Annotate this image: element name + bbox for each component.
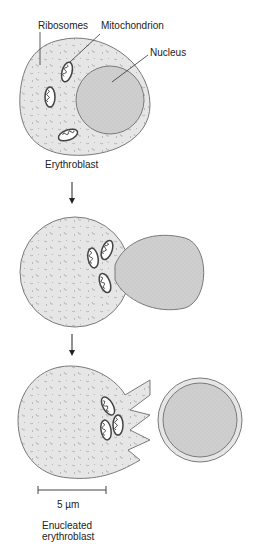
erythroblast-cell (20, 32, 150, 155)
scale-bar (38, 486, 106, 494)
label-ribosomes: Ribosomes (38, 20, 88, 31)
extruding-cell (20, 217, 204, 327)
enucleated-cell (18, 366, 242, 478)
diagram-canvas (0, 0, 255, 548)
label-enucleated-1: Enucleated (42, 520, 92, 531)
label-mitochondrion: Mitochondrion (101, 20, 164, 31)
label-scale: 5 µm (57, 499, 79, 510)
nucleus (76, 66, 144, 134)
label-enucleated-2: erythroblast (42, 531, 94, 542)
label-erythroblast: Erythroblast (45, 159, 98, 170)
label-nucleus: Nucleus (150, 47, 186, 58)
